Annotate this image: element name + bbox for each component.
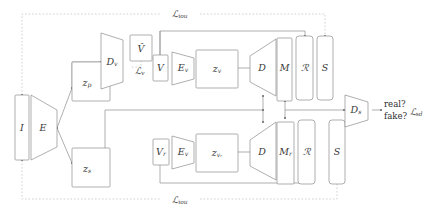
loss-shape-disc-label: ℒsd [410, 107, 423, 117]
node-mask-top-label: M [279, 62, 290, 73]
output-fake-label: fake? [384, 111, 408, 121]
node-input-image-label: I [19, 122, 24, 133]
loss-iou-top-label: ℒiou [172, 9, 187, 19]
diagram-canvas: I E zp zs Dv V̂ V Ev zv D M ℛ [0, 0, 431, 218]
node-encoder-label: E [39, 122, 47, 133]
node-decoder-bottom-label: D [257, 146, 266, 157]
loss-view-label: ℒv [135, 66, 145, 76]
node-decoder-top-label: D [257, 62, 266, 73]
node-render-bottom-label: ℛ [303, 146, 312, 157]
loss-iou-bottom-label: ℒiou [172, 195, 187, 205]
node-view-predicted-label: V̂ [138, 43, 146, 54]
node-render-top-label: ℛ [301, 62, 310, 73]
node-silhouette-top-label: S [322, 62, 329, 73]
output-real-label: real? [384, 99, 406, 109]
architecture-diagram: I E zp zs Dv V̂ V Ev zv D M ℛ [0, 0, 431, 218]
node-silhouette-bottom-label: S [334, 146, 341, 157]
node-view-gt-label: V [157, 62, 165, 73]
